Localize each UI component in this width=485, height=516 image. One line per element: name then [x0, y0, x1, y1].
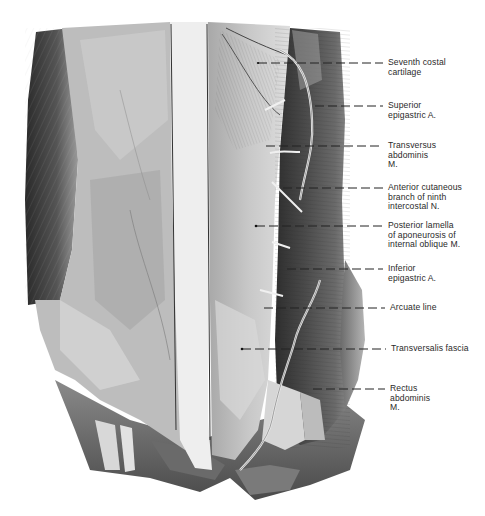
label-inferior-epigastric-a: Inferior epigastric A.: [388, 264, 436, 283]
label-seventh-costal-cartilage: Seventh costal cartilage: [388, 58, 446, 77]
label-transversus-abdominis-m: Transversus abdominis M.: [388, 141, 436, 170]
label-rectus-abdominis-m: Rectus abdominis M.: [390, 384, 430, 413]
lateral-muscle-right: [340, 260, 365, 410]
label-posterior-lamella: Posterior lamella of aponeurosis of inte…: [388, 221, 460, 250]
label-superior-epigastric-a: Superior epigastric A.: [388, 101, 436, 120]
label-transversalis-fascia: Transversalis fascia: [391, 344, 469, 354]
anatomical-illustration: [0, 0, 485, 516]
rectus-abdominis: [275, 28, 350, 448]
label-arcuate-line: Arcuate line: [390, 303, 437, 313]
label-anterior-cutaneous-branch: Anterior cutaneous branch of ninth inter…: [388, 183, 462, 212]
